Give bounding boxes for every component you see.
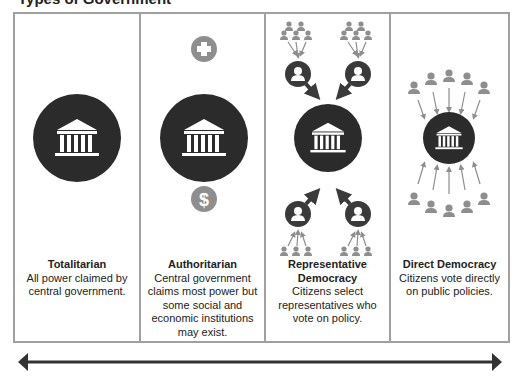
representative-icon — [285, 61, 315, 94]
caption-direct-democracy: Direct Democracy Citizens vote directly … — [391, 258, 508, 299]
panel-name: Authoritarian — [144, 258, 261, 272]
panel-description: Citizens vote directly on public policie… — [394, 272, 505, 299]
panel-authoritarian: $ Authoritarian Central government claim… — [139, 14, 264, 341]
citizen-group-icon — [340, 21, 372, 56]
representative-icon — [285, 194, 315, 227]
panel-description: All power claimed by central government. — [18, 272, 136, 299]
government-building-icon — [160, 94, 248, 182]
citizen-icon — [408, 192, 490, 217]
spectrum-double-arrow-icon — [18, 353, 502, 371]
representative-illustration — [266, 14, 391, 259]
panel-totalitarian: Totalitarian All power claimed by centra… — [15, 14, 139, 341]
panel-direct-democracy: Direct Democracy Citizens vote directly … — [389, 14, 508, 341]
diagram-title: Types of Government — [18, 0, 171, 7]
caption-authoritarian: Authoritarian Central government claims … — [141, 258, 264, 339]
citizen-group-icon — [280, 21, 312, 56]
panel-description: Central government claims most power but… — [144, 272, 261, 340]
representative-icon — [341, 194, 371, 227]
svg-text:$: $ — [199, 190, 209, 210]
panel-name: Representative Democracy — [269, 258, 386, 285]
panel-name: Direct Democracy — [394, 258, 505, 272]
representative-icon — [341, 61, 371, 94]
panel-name: Totalitarian — [18, 258, 136, 272]
authoritarian-illustration: $ — [141, 14, 266, 254]
vote-arrow — [418, 164, 480, 194]
citizen-group-icon — [340, 232, 372, 256]
government-building-icon — [423, 112, 475, 164]
direct-democracy-illustration — [391, 14, 510, 254]
panel-description: Citizens select representatives who vote… — [269, 285, 386, 326]
caption-representative-democracy: Representative Democracy Citizens select… — [266, 258, 389, 326]
government-building-icon — [15, 14, 139, 254]
dollar-icon: $ — [191, 186, 217, 212]
government-building-icon — [294, 104, 362, 172]
panel-representative-democracy: Representative Democracy Citizens select… — [264, 14, 389, 341]
citizen-group-icon — [280, 232, 312, 256]
caption-totalitarian: Totalitarian All power claimed by centra… — [15, 258, 139, 299]
government-types-frame: Totalitarian All power claimed by centra… — [13, 12, 510, 343]
plus-icon — [191, 36, 217, 62]
